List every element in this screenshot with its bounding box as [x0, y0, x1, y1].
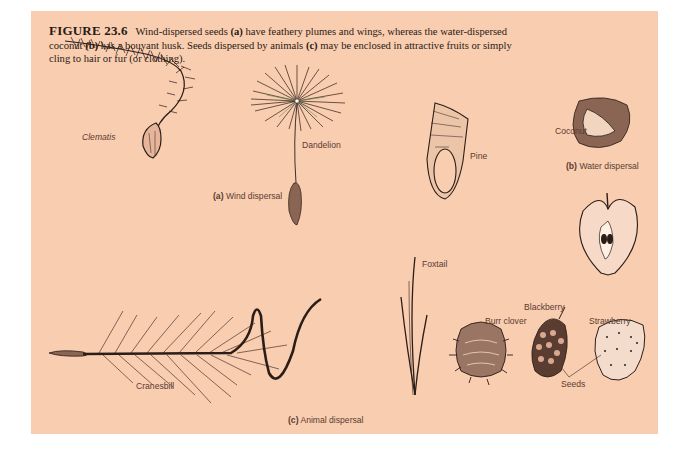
label-pine: Pine	[470, 151, 487, 161]
label-cranesbill: Cranesbill	[136, 381, 174, 391]
label-dandelion: Dandelion	[302, 140, 341, 150]
section-label-wind: (a) Wind dispersal	[213, 191, 282, 201]
label-clematis: Clematis	[82, 132, 115, 142]
label-seeds: Seeds	[561, 379, 585, 389]
apple-illustration	[580, 193, 638, 275]
label-burr-clover: Burr clover	[485, 316, 527, 326]
foxtail-illustration	[401, 257, 427, 395]
label-coconut: Coconut	[555, 126, 587, 136]
label-strawberry: Strawberry	[589, 316, 631, 326]
burr-clover-illustration	[449, 322, 513, 385]
blackberry-illustration	[532, 307, 567, 377]
section-label-animal: (c) Animal dispersal	[288, 415, 364, 425]
coconut-illustration	[573, 98, 630, 148]
strawberry-illustration	[595, 319, 645, 380]
cranesbill-illustration	[49, 299, 321, 403]
section-label-water: (b) Water dispersal	[566, 161, 639, 171]
figure-panel: FIGURE 23.6 Wind-dispersed seeds (a) hav…	[31, 11, 658, 434]
label-foxtail: Foxtail	[422, 259, 447, 269]
illustrations	[31, 11, 658, 434]
pine-seed-illustration	[427, 103, 468, 199]
label-blackberry: Blackberry	[524, 302, 565, 312]
